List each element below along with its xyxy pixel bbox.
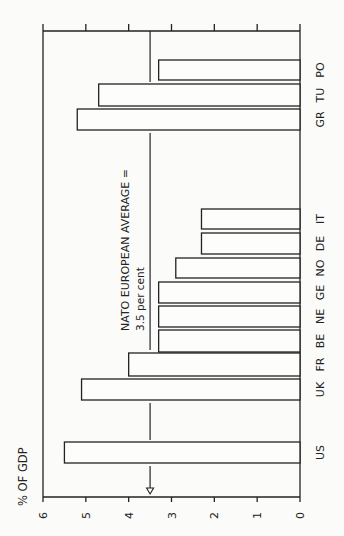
category-label-ge: GE xyxy=(314,285,327,301)
category-label-ne: NE xyxy=(314,309,327,324)
category-label-us: US xyxy=(314,445,327,460)
bar-ge xyxy=(159,282,300,303)
bar-no xyxy=(176,258,300,278)
tick-label: 3 xyxy=(166,512,179,519)
bar-us xyxy=(64,442,300,463)
tick-label: 6 xyxy=(37,512,50,519)
category-labels: USUKFRBENEGENODEITGRTUPO xyxy=(314,62,327,460)
category-label-po: PO xyxy=(314,62,327,78)
tick-label: 4 xyxy=(123,512,136,519)
average-annotation-line2: 3.5 per cent xyxy=(134,267,146,331)
tick-label: 0 xyxy=(294,512,307,519)
arrowhead-icon xyxy=(147,488,154,494)
bar-de xyxy=(201,233,300,254)
category-label-be: BE xyxy=(314,334,327,349)
bar-be xyxy=(159,330,300,352)
tick-label: 1 xyxy=(251,512,264,519)
bar-it xyxy=(201,209,300,229)
y-axis-label: % OF GDP xyxy=(16,447,30,506)
category-label-it: IT xyxy=(314,214,327,224)
nato-defence-spending-chart: 0123456 USUKFRBENEGENODEITGRTUPO % OF GD… xyxy=(0,0,344,536)
category-label-uk: UK xyxy=(314,381,327,397)
category-label-fr: FR xyxy=(314,357,327,371)
tick-label: 2 xyxy=(208,512,221,519)
bar-uk xyxy=(82,379,300,400)
bar-ne xyxy=(159,306,300,327)
category-label-no: NO xyxy=(314,259,327,276)
bar-po xyxy=(159,60,300,80)
bars xyxy=(64,60,300,463)
average-annotation-line1: NATO EUROPEAN AVERAGE = xyxy=(119,169,132,331)
category-label-tu: TU xyxy=(314,88,327,104)
bar-tu xyxy=(99,84,300,106)
category-label-de: DE xyxy=(314,236,327,251)
bar-fr xyxy=(129,353,300,376)
tick-label: 5 xyxy=(80,512,93,519)
bar-gr xyxy=(77,109,300,130)
category-label-gr: GR xyxy=(314,111,327,128)
